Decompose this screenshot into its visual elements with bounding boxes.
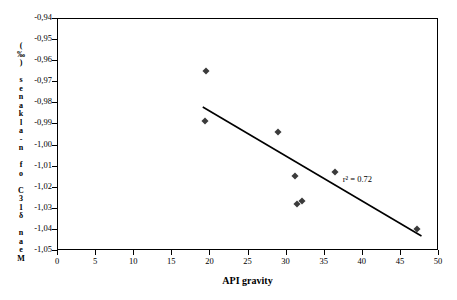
x-axis-tick-mark [400,250,401,255]
y-axis-tick-label: -1,00 [12,140,52,149]
y-axis-title-char: M [14,255,28,264]
scatter-chart: (‰) senakla-n fo C31δ naeM API gravity -… [0,0,457,300]
plot-area [57,18,438,250]
y-axis-tick-label: -0,96 [12,55,52,64]
x-axis-tick-mark [248,250,249,255]
y-axis-tick-mark [52,187,57,188]
y-axis-tick-label: -1,04 [12,224,52,233]
y-axis-tick-label: -1,02 [12,182,52,191]
y-axis-tick-label: -1,05 [12,245,52,254]
x-axis-tick-label: 0 [42,257,72,266]
x-axis-tick-mark [209,250,210,255]
x-axis-tick-mark [95,250,96,255]
x-axis-tick-label: 50 [423,257,453,266]
x-axis-tick-label: 35 [309,257,339,266]
x-axis-tick-mark [438,250,439,255]
x-axis-tick-mark [286,250,287,255]
y-axis-tick-mark [52,60,57,61]
x-axis-tick-label: 15 [156,257,186,266]
y-axis-tick-label: -0,99 [12,118,52,127]
y-axis-tick-mark [52,39,57,40]
r-squared-annotation: r² = 0.72 [343,174,372,184]
x-axis-tick-mark [57,250,58,255]
y-axis-tick-mark [52,81,57,82]
x-axis-tick-mark [133,250,134,255]
y-axis-tick-mark [52,123,57,124]
y-axis-tick-label: -1,01 [12,161,52,170]
y-axis-tick-label: -0,95 [12,34,52,43]
trend-line [58,19,439,251]
y-axis-tick-mark [52,229,57,230]
x-axis-tick-label: 20 [194,257,224,266]
x-axis-tick-label: 40 [347,257,377,266]
x-axis-tick-mark [324,250,325,255]
y-axis-tick-label: -0,97 [12,76,52,85]
x-axis-tick-label: 25 [233,257,263,266]
y-axis-tick-label: -1,03 [12,203,52,212]
y-axis-tick-mark [52,208,57,209]
x-axis-tick-label: 45 [385,257,415,266]
y-axis-tick-mark [52,145,57,146]
y-axis-tick-label: -0,94 [12,13,52,22]
y-axis-tick-label: -0,98 [12,97,52,106]
x-axis-tick-label: 10 [118,257,148,266]
x-axis-tick-label: 5 [80,257,110,266]
y-axis-tick-mark [52,166,57,167]
y-axis-tick-mark [52,102,57,103]
x-axis-tick-mark [362,250,363,255]
x-axis-tick-mark [171,250,172,255]
x-axis-tick-label: 30 [271,257,301,266]
y-axis-tick-mark [52,18,57,19]
x-axis-title: API gravity [57,275,438,286]
